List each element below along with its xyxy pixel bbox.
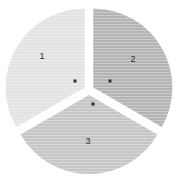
pie-chart-canvas: 123 bbox=[0, 0, 185, 177]
slice-label-2: 2 bbox=[130, 54, 135, 64]
pie-chart-figure: 123 bbox=[0, 0, 185, 177]
slice-apex-dot-3 bbox=[92, 103, 95, 106]
slice-label-1: 1 bbox=[39, 51, 44, 61]
slice-apex-dot-1 bbox=[74, 80, 77, 83]
slice-label-3: 3 bbox=[85, 136, 90, 146]
slice-apex-dot-2 bbox=[109, 80, 112, 83]
